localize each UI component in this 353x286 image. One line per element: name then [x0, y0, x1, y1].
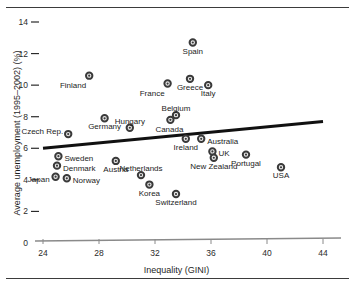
data-point-center: [213, 157, 215, 159]
data-point-label: Netherlands: [119, 165, 162, 173]
data-point-center: [56, 165, 58, 167]
data-point-label: Spain: [183, 48, 203, 56]
data-point-label: Switzerland: [155, 199, 196, 207]
data-point-center: [88, 75, 90, 77]
data-point-center: [148, 183, 150, 185]
data-point-center: [129, 127, 131, 129]
data-point-center: [245, 154, 247, 156]
data-point-center: [200, 138, 202, 140]
data-point-center: [207, 84, 209, 86]
data-point-label: Belgium: [162, 105, 191, 113]
data-point-label: Greece: [177, 84, 203, 92]
data-point-center: [169, 119, 171, 121]
data-point-label: Australia: [207, 138, 238, 146]
axis-lines: [35, 238, 341, 241]
data-point-center: [167, 82, 169, 84]
x-tick-label: 24: [38, 249, 47, 258]
x-tick-label: 44: [318, 249, 327, 258]
data-point-label: Italy: [201, 90, 216, 98]
data-point-label: Denmark: [63, 165, 95, 173]
data-point-center: [104, 117, 106, 119]
data-markers: [52, 39, 284, 197]
y-tick-label: 14: [8, 18, 28, 27]
data-point-label: UK: [218, 150, 229, 158]
data-point-center: [67, 133, 69, 135]
data-point-label: Korea: [139, 190, 160, 198]
data-point-center: [175, 193, 177, 195]
data-point-label: Hungary: [115, 118, 145, 126]
x-tick-label: 36: [206, 249, 215, 258]
data-point-center: [140, 174, 142, 176]
data-point-center: [211, 150, 213, 152]
data-point-label: France: [140, 90, 165, 98]
data-point-label: Sweden: [64, 155, 93, 163]
data-point-center: [280, 166, 282, 168]
scatter-plot: 02468101214 242832364044 SpainFinlandGre…: [0, 0, 353, 286]
data-point-label: Japan: [28, 176, 50, 184]
data-point-center: [66, 177, 68, 179]
y-axis-title: Average unemployment (1995–2002) (%): [12, 33, 22, 233]
data-point-center: [192, 41, 194, 43]
data-point-center: [189, 78, 191, 80]
x-tick-label: 28: [94, 249, 103, 258]
data-point-label: Ireland: [174, 144, 198, 152]
y-tick-label: 0: [8, 239, 28, 248]
data-point-center: [55, 176, 57, 178]
figure-container: 02468101214 242832364044 SpainFinlandGre…: [0, 0, 353, 286]
data-point-label: Finland: [60, 82, 86, 90]
data-point-center: [57, 155, 59, 157]
x-axis-title: Inequality (GINI): [0, 265, 353, 275]
data-point-label: Canada: [155, 126, 183, 134]
x-tick-label: 40: [262, 249, 271, 258]
data-point-label: New Zealand: [190, 163, 237, 171]
data-point-label: Norway: [73, 177, 100, 185]
data-point-center: [175, 114, 177, 116]
x-tick-label: 32: [150, 249, 159, 258]
data-point-center: [115, 160, 117, 162]
data-point-label: USA: [273, 172, 289, 180]
data-point-center: [185, 138, 187, 140]
x-axis-line: [35, 238, 341, 241]
data-point-label: Czech Rep.: [21, 128, 63, 136]
